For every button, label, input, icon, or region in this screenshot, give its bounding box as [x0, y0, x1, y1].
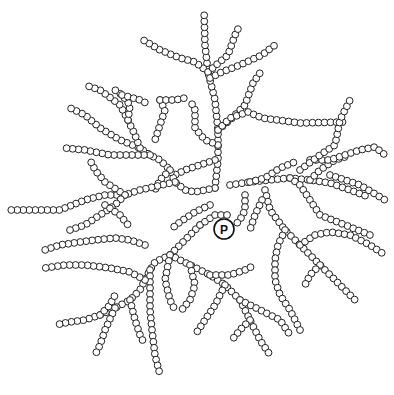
bead-icon — [346, 97, 353, 104]
bead-icon — [88, 159, 95, 166]
bead-icon — [156, 368, 163, 375]
bead-icon — [256, 70, 263, 77]
bead-icon — [42, 265, 49, 272]
polymer-chain — [127, 297, 146, 344]
bead-icon — [42, 247, 49, 254]
bead-icon — [67, 227, 74, 234]
bead-icon — [194, 328, 201, 335]
bead-icon — [285, 329, 292, 336]
bead-icon — [234, 219, 241, 226]
bead-icon — [8, 207, 15, 214]
bead-icon — [351, 296, 358, 303]
polymer-chain — [8, 179, 179, 214]
bead-icon — [201, 12, 208, 19]
bead-icon — [290, 159, 297, 166]
bead-icon — [170, 304, 177, 311]
bead-icon — [378, 249, 385, 256]
polymer-chain — [42, 235, 149, 254]
core-protein-node: P — [214, 219, 234, 239]
bead-icon — [247, 264, 254, 271]
bead-icon — [247, 224, 254, 231]
bead-icon — [139, 337, 146, 344]
bead-icon — [381, 196, 388, 203]
polymer-chain — [207, 264, 254, 279]
polymer-chain — [147, 267, 163, 375]
bead-icon — [302, 280, 309, 287]
bead-icon — [179, 306, 186, 313]
bead-icon — [124, 221, 131, 228]
polymer-chain — [194, 282, 228, 335]
bead-icon — [235, 26, 242, 33]
polymer-chain — [157, 95, 188, 104]
bead-icon — [224, 212, 231, 219]
polymer-chain — [234, 192, 249, 227]
branched-polymer-diagram: P — [0, 0, 394, 395]
bead-icon — [230, 334, 237, 341]
bead-icon — [189, 101, 196, 108]
bead-icon — [63, 145, 70, 152]
bead-icon — [112, 87, 119, 94]
polymer-chain — [230, 317, 253, 342]
core-label: P — [220, 223, 228, 237]
bead-icon — [86, 83, 93, 90]
bead-icon — [152, 136, 159, 143]
polymer-chain — [141, 37, 212, 75]
polymer-chain — [179, 262, 198, 313]
bead-icon — [271, 42, 278, 49]
glucose-chain-beads — [8, 12, 388, 375]
bead-icon — [93, 349, 100, 356]
polymer-chain — [42, 262, 148, 284]
bead-icon — [380, 151, 387, 158]
bead-icon — [56, 321, 63, 328]
polymer-chain — [302, 262, 323, 288]
bead-icon — [171, 223, 178, 230]
bead-icon — [367, 232, 374, 239]
bead-icon — [297, 327, 304, 334]
bead-icon — [265, 349, 272, 356]
polymer-chain — [247, 197, 265, 232]
polymer-chain — [172, 157, 218, 178]
bead-icon — [68, 105, 75, 112]
bead-icon — [180, 95, 187, 102]
bead-icon — [141, 99, 148, 106]
bead-icon — [111, 293, 118, 300]
bead-icon — [141, 37, 148, 44]
